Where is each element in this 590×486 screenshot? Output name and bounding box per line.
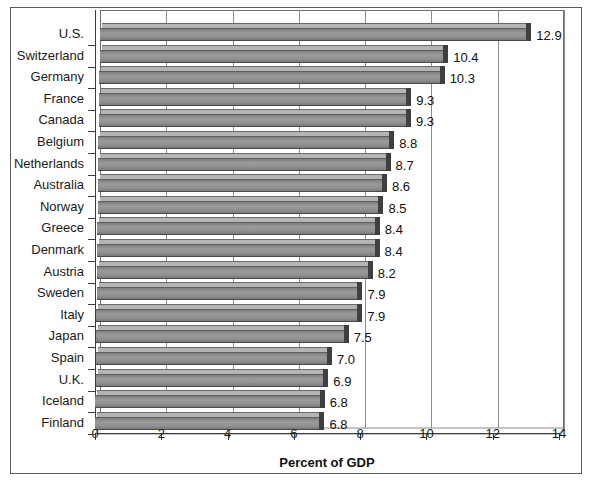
chart-figure: 12.910.410.39.39.38.88.78.68.58.48.48.27… (0, 0, 590, 486)
y-category-label: Greece (0, 221, 84, 235)
bar-end-cap (440, 66, 445, 84)
bar-front-face (98, 158, 386, 171)
bar (100, 28, 528, 41)
bar-front-face (96, 309, 358, 322)
y-tick (88, 88, 95, 89)
y-category-label: Italy (0, 308, 84, 322)
bar (98, 201, 380, 214)
bar-end-cap (406, 109, 411, 127)
bar-front-face (97, 266, 369, 279)
x-tick-label: 14 (539, 426, 579, 441)
bar-value-label: 9.3 (416, 115, 434, 128)
bar-end-cap (375, 217, 380, 235)
bar-value-label: 8.4 (385, 245, 403, 258)
bar-value-label: 8.4 (385, 223, 403, 236)
x-tick-label: 8 (340, 426, 380, 441)
x-tick-label: 10 (406, 426, 446, 441)
y-category-label: Japan (0, 329, 84, 343)
y-category-label: Austria (0, 265, 84, 279)
bar-end-cap (375, 239, 380, 257)
bar (100, 50, 445, 63)
bar-front-face (99, 93, 407, 106)
y-category-label: Netherlands (0, 157, 84, 171)
bar-end-cap (320, 390, 325, 408)
y-category-label: France (0, 92, 84, 106)
y-tick (88, 67, 95, 68)
x-tick-label: 2 (141, 426, 181, 441)
bar (98, 136, 390, 149)
y-tick (88, 326, 95, 327)
bar (97, 222, 375, 235)
bar (98, 158, 386, 171)
bar (99, 114, 407, 127)
bar-value-label: 8.2 (378, 267, 396, 280)
bar-value-label: 7.9 (367, 310, 385, 323)
bar (98, 179, 383, 192)
bar-front-face (97, 287, 359, 300)
bar-value-label: 10.4 (453, 51, 478, 64)
y-category-label: U.K. (0, 373, 84, 387)
bar-end-cap (319, 412, 324, 430)
bar-value-label: 9.3 (416, 94, 434, 107)
bar (95, 395, 320, 408)
y-tick (88, 261, 95, 262)
y-category-label: Australia (0, 178, 84, 192)
bar-front-face (97, 244, 375, 257)
bar-value-label: 7.5 (354, 331, 372, 344)
y-category-label: Switzerland (0, 49, 84, 63)
bar-end-cap (323, 369, 328, 387)
y-tick (88, 347, 95, 348)
y-category-label: Canada (0, 113, 84, 127)
x-axis-title: Percent of GDP (95, 455, 559, 470)
bar-end-cap (382, 174, 387, 192)
bar-value-label: 6.9 (333, 375, 351, 388)
y-tick (88, 45, 95, 46)
bar-end-cap (378, 196, 383, 214)
y-tick (88, 391, 95, 392)
bar-front-face (96, 374, 325, 387)
y-tick (88, 218, 95, 219)
bar-front-face (98, 201, 380, 214)
gridline-14 (564, 10, 565, 431)
y-category-label: Spain (0, 351, 84, 365)
bar-end-cap (368, 261, 373, 279)
bar-value-label: 12.9 (536, 29, 561, 42)
y-category-label: Sweden (0, 286, 84, 300)
bar-front-face (99, 71, 440, 84)
bar-end-cap (389, 131, 394, 149)
y-tick (88, 304, 95, 305)
bar-value-label: 7.9 (367, 288, 385, 301)
y-tick (88, 369, 95, 370)
bar (96, 330, 345, 343)
y-tick (88, 283, 95, 284)
bar-value-label: 8.6 (392, 180, 410, 193)
bar-end-cap (386, 153, 391, 171)
bar-end-cap (357, 304, 362, 322)
bar (96, 374, 325, 387)
bar-front-face (95, 395, 320, 408)
bar-value-label: 8.7 (396, 159, 414, 172)
bar-front-face (96, 330, 345, 343)
bar (99, 93, 407, 106)
bar (97, 244, 375, 257)
gridline-12 (498, 10, 499, 431)
bar (96, 309, 358, 322)
bar-front-face (96, 352, 328, 365)
bar-front-face (100, 50, 445, 63)
bar-value-label: 7.0 (337, 353, 355, 366)
y-category-label: Iceland (0, 394, 84, 408)
bar-end-cap (344, 325, 349, 343)
plot-area: 12.910.410.39.39.38.88.78.68.58.48.48.27… (95, 16, 559, 433)
y-category-label: U.S. (0, 27, 84, 41)
bar-value-label: 8.5 (388, 202, 406, 215)
y-tick (88, 239, 95, 240)
x-tick-label: 12 (473, 426, 513, 441)
bar-front-face (98, 136, 390, 149)
bar (96, 352, 328, 365)
bar-end-cap (357, 282, 362, 300)
x-tick-label: 4 (208, 426, 248, 441)
y-category-label: Finland (0, 416, 84, 430)
bar-end-cap (526, 23, 531, 41)
y-tick (88, 196, 95, 197)
bar (99, 71, 440, 84)
